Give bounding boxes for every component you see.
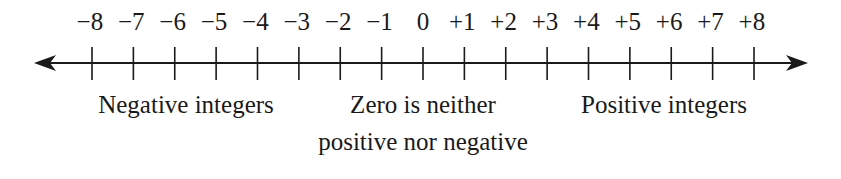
tick-label: −1	[366, 8, 393, 36]
tick-label: +5	[614, 8, 641, 36]
tick-label: −7	[118, 8, 145, 36]
tick-label: +2	[490, 8, 517, 36]
tick-label: +4	[573, 8, 600, 36]
tick-label: −2	[325, 8, 352, 36]
zero-note-line1: Zero is neither	[350, 91, 496, 119]
negative-integers-label: Negative integers	[98, 91, 274, 119]
tick-label: +6	[656, 8, 683, 36]
tick-label: −8	[77, 8, 104, 36]
tick-label: +1	[449, 8, 476, 36]
tick-label: −6	[159, 8, 186, 36]
tick-label: −4	[242, 8, 269, 36]
tick-label: −3	[283, 8, 310, 36]
tick-label: +3	[532, 8, 559, 36]
tick-label: −5	[201, 8, 228, 36]
tick-label: +8	[739, 8, 766, 36]
zero-note-line2: positive nor negative	[318, 128, 528, 156]
positive-integers-label: Positive integers	[581, 91, 747, 119]
tick-label: 0	[417, 8, 430, 36]
tick-label: +7	[697, 8, 724, 36]
